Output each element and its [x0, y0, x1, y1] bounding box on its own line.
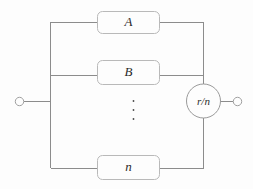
ellipsis-dot-1: [133, 100, 135, 102]
left-terminal-node[interactable]: [15, 97, 23, 105]
branch-n-label: n: [125, 159, 132, 174]
vertical-ellipsis-group: [133, 100, 135, 120]
ellipsis-dot-3: [133, 118, 135, 120]
branch-a-label: A: [124, 14, 133, 29]
resistor-group: r/n: [187, 84, 221, 118]
ellipsis-dot-2: [133, 109, 135, 111]
circuit-svg: A B n r/n: [0, 0, 253, 189]
branch-b-label: B: [125, 64, 133, 79]
right-terminal-node[interactable]: [233, 97, 241, 105]
circuit-diagram-canvas: A B n r/n parallel-branch-network ⋮: [0, 0, 253, 189]
resistor-label: r/n: [197, 95, 210, 107]
branch-boxes-group: A B n: [98, 12, 160, 180]
